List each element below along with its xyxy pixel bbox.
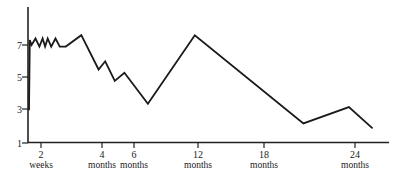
x-tick-label-12: 12 [193, 149, 203, 160]
x-unit-label-months-12: months [184, 160, 212, 170]
x-unit-label-months-4: months [88, 160, 116, 170]
x-ticks: 2 4 6 12 18 24 weeks months months month… [29, 142, 369, 170]
y-tick-label-5: 5 [17, 72, 22, 83]
x-tick-label-6: 6 [132, 149, 137, 160]
line-chart: 7 5 3 1 2 4 6 12 18 24 weeks months mont… [0, 0, 402, 182]
x-tick-label-18: 18 [259, 149, 269, 160]
y-ticks: 7 5 3 1 [17, 40, 28, 149]
x-tick-label-24: 24 [350, 149, 360, 160]
x-tick-label-4: 4 [100, 149, 105, 160]
y-tick-label-1: 1 [17, 138, 22, 149]
y-tick-label-3: 3 [17, 104, 22, 115]
x-unit-label-months-18: months [250, 160, 278, 170]
data-line [29, 35, 373, 128]
x-unit-label-weeks: weeks [29, 160, 53, 170]
x-unit-label-months-6: months [120, 160, 148, 170]
x-tick-label-2: 2 [39, 149, 44, 160]
x-unit-label-months-24: months [341, 160, 369, 170]
y-tick-label-7: 7 [17, 40, 22, 51]
